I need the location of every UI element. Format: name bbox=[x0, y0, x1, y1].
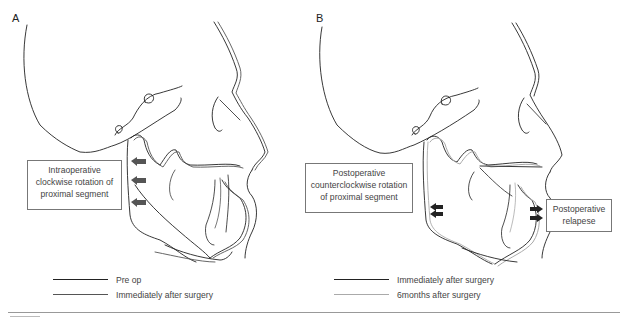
panel-b: B bbox=[312, 0, 624, 310]
legend-swatch-dark bbox=[334, 279, 389, 280]
legend-swatch-light bbox=[334, 294, 389, 295]
callout-postoperative-counterclockwise: Postoperative counterclockwise rotation … bbox=[305, 163, 413, 213]
callout-line: Postoperative bbox=[310, 167, 408, 179]
callout-line: counterclockwise rotation bbox=[310, 179, 408, 191]
legend-item-6months-after: 6months after surgery bbox=[334, 287, 494, 302]
callout-line: Postoperative bbox=[551, 203, 607, 215]
callout-line: of proximal segment bbox=[310, 191, 408, 203]
legend-label: Immediately after surgery bbox=[116, 290, 213, 300]
callout-line: Intraoperative bbox=[32, 164, 117, 176]
callout-line: proximal segment bbox=[32, 188, 117, 200]
legend-item-immediately-after: Immediately after surgery bbox=[53, 287, 213, 302]
legend-label: Pre op bbox=[116, 275, 141, 285]
cephalometric-tracing-b bbox=[312, 0, 624, 310]
legend-b: Immediately after surgery 6months after … bbox=[334, 272, 494, 302]
legend-label: Immediately after surgery bbox=[397, 275, 494, 285]
bottom-divider bbox=[8, 312, 620, 313]
callout-intraoperative-rotation: Intraoperative clockwise rotation of pro… bbox=[27, 160, 122, 210]
legend-item-immediately-after: Immediately after surgery bbox=[334, 272, 494, 287]
legend-a: Pre op Immediately after surgery bbox=[53, 272, 213, 302]
legend-item-pre-op: Pre op bbox=[53, 272, 213, 287]
legend-swatch-dark bbox=[53, 279, 108, 280]
cephalometric-tracing-a bbox=[0, 0, 312, 310]
legend-swatch-mid bbox=[53, 294, 108, 295]
legend-label: 6months after surgery bbox=[397, 290, 481, 300]
bottom-divider-accent bbox=[10, 316, 40, 317]
callout-line: relapese bbox=[551, 215, 607, 227]
callout-postoperative-relapse: Postoperative relapese bbox=[546, 199, 612, 232]
panel-a: A bbox=[0, 0, 312, 310]
callout-line: clockwise rotation of bbox=[32, 176, 117, 188]
